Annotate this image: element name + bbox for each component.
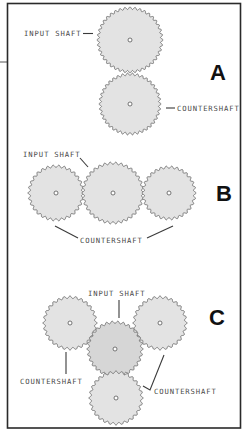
panel-b-counter-leader-right (147, 226, 173, 238)
shaft-hole-icon (158, 321, 162, 325)
shaft-hole-icon (68, 321, 72, 325)
panel-a-input-shaft-label: INPUT SHAFT (24, 29, 82, 38)
panel-c-counter-leader-right (143, 355, 164, 390)
panel-a-letter: A (210, 60, 226, 85)
shaft-hole-icon (128, 102, 132, 106)
gear-arrangement-figure: INPUT SHAFT COUNTERSHAFT A INPUT SHAFT C… (0, 0, 245, 438)
panel-c-countershaft-label-right: COUNTERSHAFT (154, 387, 217, 396)
shaft-hole-icon (128, 38, 132, 42)
figure-canvas: INPUT SHAFT COUNTERSHAFT A INPUT SHAFT C… (0, 0, 245, 438)
panel-c-countershaft-label-left: COUNTERSHAFT (20, 377, 83, 386)
panel-b-input-shaft-label: INPUT SHAFT (23, 150, 81, 159)
panel-b-input-leader (80, 158, 88, 167)
panel-c-letter: C (209, 305, 225, 330)
gear-a-countershaft (99, 73, 161, 135)
gears-layer (28, 7, 196, 425)
shaft-hole-icon (113, 347, 117, 351)
gear-b-countershaft-left (28, 165, 84, 221)
panel-a-countershaft-label: COUNTERSHAFT (177, 104, 240, 113)
shaft-hole-icon (167, 191, 171, 195)
gear-a-input-shaft (97, 7, 163, 73)
shaft-hole-icon (54, 191, 58, 195)
panel-b-counter-leader-left (55, 226, 78, 238)
gear-b-countershaft-right (142, 166, 196, 220)
panel-c-input-shaft-label: INPUT SHAFT (88, 289, 146, 298)
panel-b-letter: B (216, 181, 232, 206)
gear-c-countershaft-bottom (89, 371, 143, 425)
shaft-hole-icon (111, 191, 115, 195)
shaft-hole-icon (114, 396, 118, 400)
gear-b-input-shaft (82, 162, 144, 224)
panel-b-countershaft-label: COUNTERSHAFT (80, 236, 143, 245)
